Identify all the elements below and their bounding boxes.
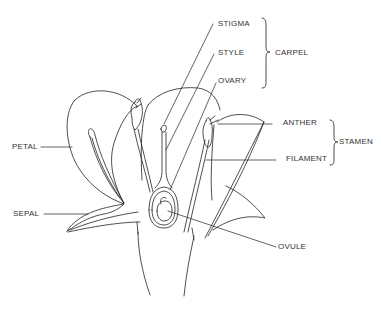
- stigma-leader: [164, 24, 213, 124]
- right-filament: [184, 140, 209, 232]
- ovule-leader: [168, 211, 276, 247]
- label-carpel: CARPEL: [275, 49, 308, 57]
- label-anther: ANTHER: [283, 119, 317, 127]
- left-petal: [67, 91, 137, 204]
- label-stigma: STIGMA: [218, 20, 250, 28]
- ovary: [149, 187, 178, 228]
- label-sepal: SEPAL: [13, 210, 39, 218]
- label-style: STYLE: [218, 49, 244, 57]
- label-petal: PETAL: [12, 143, 38, 151]
- ovary-leader: [170, 83, 216, 190]
- label-ovary: OVARY: [218, 77, 246, 85]
- ovule: [157, 201, 172, 221]
- label-stamen: STAMEN: [339, 138, 373, 146]
- carpel-brace: [262, 18, 270, 88]
- stamen-brace: [330, 120, 338, 165]
- left-anther: [131, 99, 142, 130]
- left-filament: [134, 129, 153, 192]
- stigma: [161, 125, 166, 132]
- label-ovule: OVULE: [278, 243, 306, 251]
- left-stem: [138, 232, 150, 295]
- leader-lines: [41, 24, 276, 247]
- style: [155, 132, 172, 188]
- right-stem: [184, 236, 194, 296]
- style-leader: [166, 54, 214, 150]
- flower-diagram: STIGMA STYLE OVARY CARPEL ANTHER FILAMEN…: [0, 0, 381, 311]
- label-filament: FILAMENT: [286, 155, 327, 163]
